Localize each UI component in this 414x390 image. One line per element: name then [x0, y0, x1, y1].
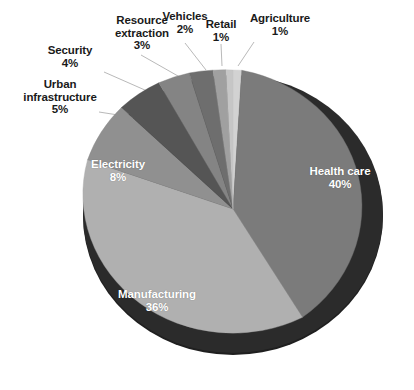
- slice-label-agriculture: Agriculture 1%: [234, 12, 326, 37]
- leader-line-retail: [221, 44, 222, 66]
- pie-chart: Resource extraction 3% Vehicles 2% Retai…: [0, 0, 414, 390]
- slice-label-urban-infrastructure: Urban infrastructure 5%: [14, 78, 106, 116]
- slice-label-electricity: Electricity 8%: [78, 158, 158, 184]
- slice-label-security: Security 4%: [34, 44, 106, 69]
- slice-label-health-care: Health care 40%: [294, 165, 386, 191]
- leader-line-agriculture: [238, 42, 254, 66]
- leader-line-vehicles: [185, 43, 206, 70]
- slice-label-manufacturing: Manufacturing 36%: [102, 288, 212, 314]
